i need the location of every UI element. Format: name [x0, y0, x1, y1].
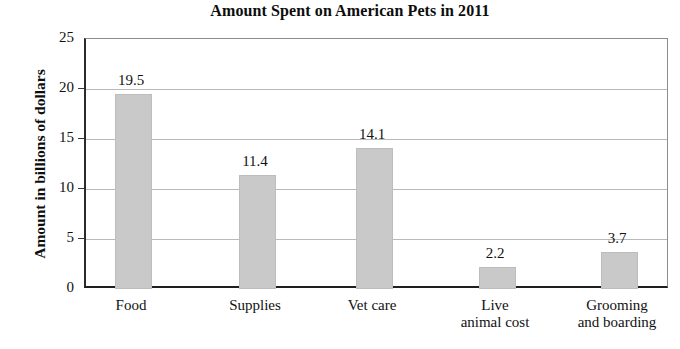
bar-value-label: 14.1 [337, 127, 407, 142]
bar [479, 267, 516, 289]
chart-title: Amount Spent on American Pets in 2011 [90, 2, 610, 20]
bar [601, 252, 638, 289]
bar [356, 148, 393, 289]
y-tick-label: 10 [40, 180, 74, 195]
y-tick-label: 15 [40, 130, 74, 145]
y-tick-label: 0 [40, 280, 74, 295]
gridline [86, 89, 667, 90]
bar [115, 94, 152, 289]
bar-value-label: 19.5 [96, 73, 166, 88]
y-tick-label: 25 [40, 30, 74, 45]
y-axis-title: Amount in billions of dollars [31, 39, 49, 289]
y-tick-label: 20 [40, 80, 74, 95]
bar-value-label: 2.2 [460, 246, 530, 261]
x-category-label-line2: and boarding [537, 314, 680, 331]
y-tick-label: 5 [40, 230, 74, 245]
bar [239, 175, 276, 289]
x-category-label: Groomingand boarding [537, 297, 680, 332]
bar-chart: Amount Spent on American Pets in 2011 Am… [0, 0, 680, 349]
plot-area [84, 38, 668, 288]
bar-value-label: 11.4 [220, 154, 290, 169]
bar-value-label: 3.7 [582, 231, 652, 246]
